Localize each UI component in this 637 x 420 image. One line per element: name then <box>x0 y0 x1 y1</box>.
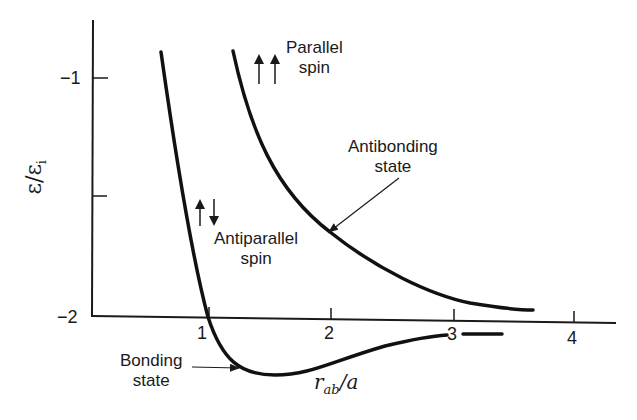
x-tick-label-3: 3 <box>447 324 457 344</box>
antiparallel-label-line2: spin <box>214 249 298 269</box>
antiparallel-spin-icon <box>195 199 219 226</box>
bonding-label-line1: Bonding <box>120 351 182 371</box>
parallel-label-line2: spin <box>286 58 343 78</box>
y-axis <box>92 20 93 317</box>
x-tick-label-1: 1 <box>197 323 207 343</box>
antiparallel-label-line1: Antiparallel <box>214 229 298 249</box>
antibonding-label-line2: state <box>348 157 438 177</box>
x-axis <box>92 316 616 323</box>
y-tick-label-minus1: −1 <box>60 68 81 88</box>
parallel-spin-label: Parallel spin <box>286 38 343 78</box>
y-tick-label-minus2: −2 <box>57 307 78 327</box>
y-axis-label-main: ε/ε <box>21 164 46 194</box>
y-axis-label: ε/εi <box>21 160 49 194</box>
antibonding-pointer <box>329 178 399 232</box>
antibonding-state-label: Antibonding state <box>348 137 438 177</box>
x-tick-label-2: 2 <box>324 323 334 343</box>
parallel-spin-icon <box>254 54 280 84</box>
bonding-label-line2: state <box>120 371 182 391</box>
x-axis-label-sub: ab <box>324 382 340 397</box>
bonding-state-label: Bonding state <box>120 351 182 391</box>
x-axis-label-tail: /a <box>340 370 359 394</box>
x-tick-label-4: 4 <box>567 328 577 348</box>
bonding-pointer <box>192 367 239 368</box>
y-axis-label-sub: i <box>34 160 49 164</box>
antiparallel-spin-label: Antiparallel spin <box>214 229 298 269</box>
parallel-label-line1: Parallel <box>286 38 343 58</box>
x-axis-label: rab/a <box>314 370 358 397</box>
x-axis-label-main: r <box>314 370 324 394</box>
antibonding-curve <box>233 51 533 310</box>
antibonding-label-line1: Antibonding <box>348 137 438 157</box>
